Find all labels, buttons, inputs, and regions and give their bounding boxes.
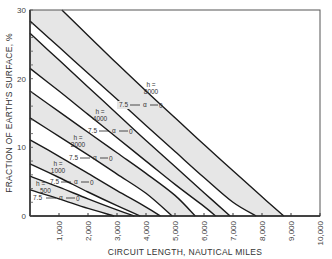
svg-text:0: 0 [90, 179, 94, 186]
x-tick-label: 9,000 [287, 220, 296, 241]
svg-text:7.5: 7.5 [88, 127, 97, 134]
svg-text:α: α [59, 194, 63, 201]
shaded-bands [30, 10, 284, 216]
chart: 1,0002,0003,0004,0005,0006,0007,0008,000… [0, 0, 332, 259]
y-tick-label: 30 [17, 6, 26, 15]
svg-text:7.5: 7.5 [50, 178, 59, 185]
svg-text:500: 500 [40, 187, 51, 194]
svg-text:0: 0 [159, 102, 163, 109]
x-tick-label: 8,000 [258, 220, 267, 241]
x-tick-label: 3,000 [113, 220, 122, 241]
x-tick-label: 10,000 [316, 220, 325, 245]
x-tick-label: 7,000 [229, 220, 238, 241]
svg-text:8000: 8000 [144, 88, 159, 95]
svg-text:α: α [112, 127, 116, 134]
x-tick-label: 1,000 [55, 220, 64, 241]
svg-text:α: α [143, 101, 147, 108]
x-ticks: 1,0002,0003,0004,0005,0006,0007,0008,000… [55, 213, 325, 245]
x-tick-label: 6,000 [200, 220, 209, 241]
svg-text:1000: 1000 [51, 167, 66, 174]
y-tick-label: 10 [17, 143, 26, 152]
svg-text:0: 0 [76, 195, 80, 202]
y-axis-title: FRACTION OF EARTH'S SURFACE, % [4, 33, 14, 193]
svg-text:7.5: 7.5 [69, 154, 78, 161]
svg-text:2000: 2000 [71, 141, 86, 148]
svg-text:4000: 4000 [93, 115, 108, 122]
svg-text:h =: h = [95, 108, 104, 115]
x-tick-label: 5,000 [171, 220, 180, 241]
svg-text:α: α [93, 154, 97, 161]
x-tick-label: 2,000 [84, 220, 93, 241]
svg-text:h =: h = [53, 160, 62, 167]
svg-text:0: 0 [129, 128, 133, 135]
y-tick-label: 0 [22, 212, 27, 221]
svg-text:h =: h = [73, 134, 82, 141]
svg-text:h =: h = [36, 180, 45, 187]
svg-text:h =: h = [146, 81, 155, 88]
svg-text:7.5: 7.5 [119, 101, 128, 108]
x-tick-label: 4,000 [142, 220, 151, 241]
svg-text:0: 0 [109, 155, 113, 162]
svg-text:7.5: 7.5 [33, 194, 42, 201]
y-tick-label: 20 [17, 75, 26, 84]
svg-text:α: α [74, 178, 78, 185]
x-axis-title: CIRCUIT LENGTH, NAUTICAL MILES [108, 247, 262, 257]
